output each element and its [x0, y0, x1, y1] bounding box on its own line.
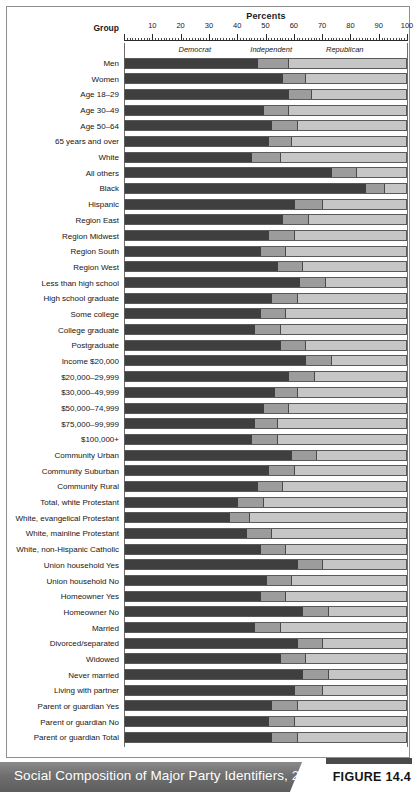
- bar-row: Total, white Protestant: [7, 496, 411, 510]
- bar-track: [124, 622, 407, 633]
- figure-tag-rule: [326, 758, 412, 764]
- bar-segment-independent: [252, 435, 277, 444]
- legend-item-republican: Republican: [326, 45, 364, 54]
- bar-segment-republican: [306, 74, 407, 83]
- bar-row: Age 50–64: [7, 120, 411, 134]
- bar-row: Homeowner No: [7, 606, 411, 620]
- bar-segment-democrat: [125, 404, 264, 413]
- bar-segment-democrat: [125, 153, 252, 162]
- bar-segment-democrat: [125, 121, 272, 130]
- bar-row: Community Suburban: [7, 465, 411, 479]
- bar-segment-independent: [295, 200, 323, 209]
- bar-row-label: Black: [9, 184, 119, 194]
- bar-segment-republican: [357, 168, 407, 177]
- bar-segment-republican: [317, 451, 407, 460]
- bar-segment-republican: [298, 733, 407, 742]
- bar-segment-independent: [298, 639, 323, 648]
- bar-segment-republican: [323, 686, 407, 695]
- bar-row-label: Postgraduate: [9, 341, 119, 351]
- bar-segment-independent: [255, 623, 280, 632]
- bar-row-label: Divorced/separated: [9, 639, 119, 649]
- bar-row-label: Parent or guardian Total: [9, 733, 119, 743]
- x-axis-tick-50: 50: [261, 21, 269, 30]
- bar-row: White, mainline Protestant: [7, 527, 411, 541]
- bar-segment-republican: [303, 262, 407, 271]
- bar-segment-independent: [300, 278, 325, 287]
- bar-track: [124, 387, 407, 398]
- bar-row-label: Union household No: [9, 577, 119, 587]
- bar-segment-republican: [264, 498, 407, 507]
- bar-track: [124, 606, 407, 617]
- bar-row: White: [7, 151, 411, 165]
- bar-segment-independent: [255, 325, 280, 334]
- bar-row-label: Never married: [9, 671, 119, 681]
- bar-segment-independent: [258, 482, 283, 491]
- bar-track: [124, 183, 407, 194]
- bar-row-label: Community Rural: [9, 482, 119, 492]
- bar-segment-democrat: [125, 309, 261, 318]
- bar-row: College graduate: [7, 324, 411, 338]
- bar-row-label: 65 years and over: [9, 137, 119, 147]
- bar-segment-republican: [326, 278, 407, 287]
- bar-row: $50,000–74,999: [7, 402, 411, 416]
- bar-segment-independent: [303, 670, 328, 679]
- bar-segment-democrat: [125, 184, 366, 193]
- bar-row: Income $20,000: [7, 355, 411, 369]
- bar-segment-independent: [303, 607, 328, 616]
- bar-row: Never married: [7, 669, 411, 683]
- axis-title-percents: Percents: [124, 11, 408, 21]
- bar-track: [124, 340, 407, 351]
- bar-segment-republican: [272, 529, 407, 538]
- bar-segment-independent: [298, 560, 323, 569]
- bar-row: Married: [7, 622, 411, 636]
- bar-row: Community Rural: [7, 480, 411, 494]
- x-axis-tick-100: 100: [401, 21, 414, 30]
- bar-segment-democrat: [125, 137, 269, 146]
- bar-segment-independent: [272, 733, 297, 742]
- bar-row-label: $20,000–29,999: [9, 373, 119, 383]
- bar-segment-democrat: [125, 529, 247, 538]
- chart-panel: Percents Group 102030405060708090100 Dem…: [6, 6, 410, 758]
- bar-segment-republican: [289, 59, 407, 68]
- bar-row-label: Region West: [9, 263, 119, 273]
- bar-track: [124, 403, 407, 414]
- bar-track: [124, 497, 407, 508]
- bar-track: [124, 261, 407, 272]
- bar-segment-independent: [269, 466, 294, 475]
- bar-row-label: White, non-Hispanic Catholic: [9, 545, 119, 555]
- bar-row-label: $30,000–49,999: [9, 388, 119, 398]
- bar-segment-republican: [286, 545, 407, 554]
- bar-segment-republican: [295, 466, 407, 475]
- bar-row: Region South: [7, 245, 411, 259]
- bar-segment-independent: [255, 419, 278, 428]
- bar-row: Homeowner Yes: [7, 590, 411, 604]
- group-column-header: Group: [47, 23, 119, 33]
- bar-segment-democrat: [125, 466, 269, 475]
- bar-segment-republican: [250, 513, 407, 522]
- bar-segment-democrat: [125, 592, 261, 601]
- bar-segment-democrat: [125, 513, 230, 522]
- x-axis-tick-80: 80: [346, 21, 354, 30]
- bar-segment-republican: [278, 419, 407, 428]
- bar-track: [124, 58, 407, 69]
- bar-segment-independent: [281, 654, 306, 663]
- bar-segment-republican: [289, 106, 407, 115]
- bar-segment-democrat: [125, 482, 258, 491]
- bar-track: [124, 669, 407, 680]
- bar-segment-independent: [261, 592, 286, 601]
- bar-track: [124, 700, 407, 711]
- bar-row: Union household No: [7, 575, 411, 589]
- bar-segment-independent: [247, 529, 272, 538]
- bar-track: [124, 732, 407, 743]
- bar-row-label: Parent or guardian No: [9, 718, 119, 728]
- bar-segment-democrat: [125, 90, 289, 99]
- bar-segment-democrat: [125, 576, 267, 585]
- bar-segment-democrat: [125, 231, 269, 240]
- bar-segment-independent: [281, 341, 306, 350]
- bar-row-label: All others: [9, 169, 119, 179]
- bar-row: Region East: [7, 214, 411, 228]
- bar-segment-republican: [292, 137, 407, 146]
- ruler-tick: [407, 34, 408, 41]
- x-axis-tick-70: 70: [318, 21, 326, 30]
- bar-row: Men: [7, 57, 411, 71]
